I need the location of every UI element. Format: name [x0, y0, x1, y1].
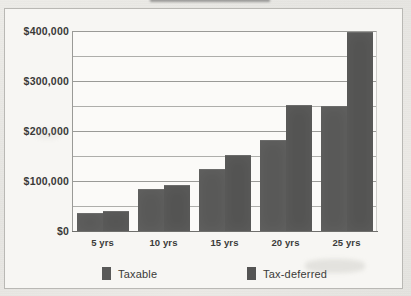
legend-swatch-icon — [247, 267, 256, 280]
scan-artifact — [35, 129, 61, 139]
cropped-title-fragment — [150, 0, 270, 2]
bar-taxable-5-yrs — [77, 213, 103, 231]
bar-taxable-20-yrs — [260, 140, 286, 232]
chart-card: $0$100,000$200,000$300,000$400,000 5 yrs… — [4, 8, 403, 289]
bar-tax-deferred-25-yrs — [347, 32, 373, 232]
bar-taxable-10-yrs — [138, 189, 164, 231]
x-axis-tick-label: 25 yrs — [316, 237, 377, 248]
bar-series-container — [72, 31, 377, 231]
bar-group — [316, 31, 377, 231]
scan-artifact — [305, 259, 365, 273]
x-axis-tick-label: 20 yrs — [255, 237, 316, 248]
axis-baseline — [72, 231, 378, 232]
legend-swatch-icon — [102, 267, 111, 280]
bar-tax-deferred-5-yrs — [103, 211, 129, 232]
y-axis-tick-label: $0 — [7, 225, 69, 237]
x-axis-tick-label: 5 yrs — [72, 237, 133, 248]
bar-tax-deferred-10-yrs — [164, 185, 190, 232]
bar-tax-deferred-15-yrs — [225, 155, 251, 232]
x-axis-tick-label: 10 yrs — [133, 237, 194, 248]
legend-label: Taxable — [118, 268, 157, 280]
y-axis-tick-label: $400,000 — [7, 25, 69, 37]
bar-tax-deferred-20-yrs — [286, 105, 312, 232]
legend-item-taxable[interactable]: Taxable — [102, 267, 157, 280]
bar-group — [255, 31, 316, 231]
bar-group — [72, 31, 133, 231]
x-axis: 5 yrs10 yrs15 yrs20 yrs25 yrs — [72, 233, 377, 255]
y-axis-tick-label: $100,000 — [7, 175, 69, 187]
bar-group — [194, 31, 255, 231]
bar-taxable-25-yrs — [321, 106, 347, 232]
bar-taxable-15-yrs — [199, 169, 225, 231]
y-axis-tick-label: $300,000 — [7, 75, 69, 87]
y-axis: $0$100,000$200,000$300,000$400,000 — [5, 9, 69, 288]
bar-group — [133, 31, 194, 231]
x-axis-tick-label: 15 yrs — [194, 237, 255, 248]
